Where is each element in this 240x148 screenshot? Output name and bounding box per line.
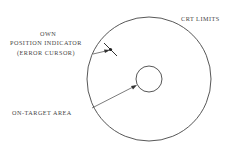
crt-limits-circle xyxy=(87,17,211,141)
crt-limits-label: CRT LIMITS xyxy=(181,16,220,22)
on-target-area-label: ON-TARGET AREA xyxy=(12,110,72,116)
position-indicator-label: POSITION INDICATOR xyxy=(10,40,82,46)
on-target-area-circle xyxy=(136,66,162,92)
on-target-arrowhead xyxy=(131,85,137,90)
error-cursor-dot xyxy=(109,48,112,51)
error-cursor-arrowhead xyxy=(104,50,110,54)
on-target-leader xyxy=(92,86,135,108)
own-label: OWN xyxy=(40,31,56,37)
error-cursor-label: (ERROR CURSOR) xyxy=(17,50,75,56)
